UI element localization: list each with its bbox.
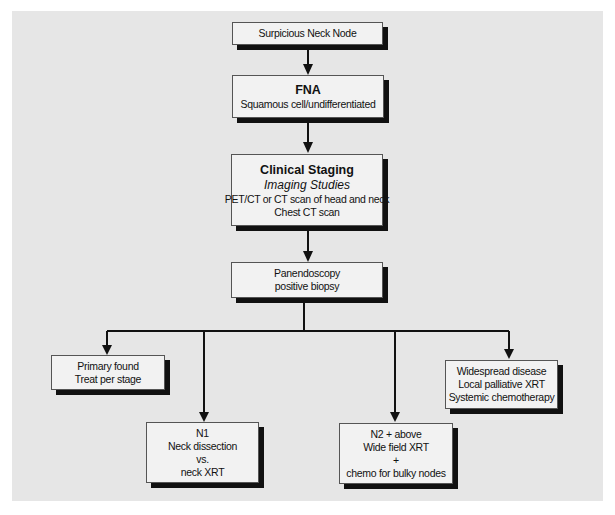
node-text: chemo for bulky nodes bbox=[346, 467, 445, 480]
node-text: PET/CT or CT scan of head and neck bbox=[225, 193, 390, 206]
node-subtitle: Imaging Studies bbox=[264, 178, 350, 193]
node-text: Treat per stage bbox=[75, 373, 141, 386]
node-title: Clinical Staging bbox=[260, 162, 354, 178]
node-n2-above: N2 + above Wide field XRT + chemo for bu… bbox=[339, 423, 453, 484]
node-text: Panendoscopy bbox=[274, 267, 340, 280]
node-text: Local palliative XRT bbox=[458, 378, 545, 391]
node-text: positive biopsy bbox=[275, 280, 339, 293]
node-n1: N1 Neck dissection vs. neck XRT bbox=[146, 422, 259, 483]
arrowhead-panendoscopy bbox=[303, 251, 313, 262]
node-primary-found: Primary found Treat per stage bbox=[51, 355, 165, 390]
node-title: FNA bbox=[295, 82, 321, 98]
node-text: Systemic chemotherapy bbox=[449, 391, 555, 404]
arrowhead-widespread bbox=[504, 349, 514, 359]
node-widespread-disease: Widespread disease Local palliative XRT … bbox=[445, 360, 558, 409]
node-text: N2 + above bbox=[371, 428, 422, 441]
arrowhead-staging bbox=[303, 142, 313, 153]
node-clinical-staging: Clinical Staging Imaging Studies PET/CT … bbox=[231, 154, 383, 226]
node-panendoscopy: Panendoscopy positive biopsy bbox=[231, 262, 383, 298]
node-text: Neck dissection bbox=[168, 440, 237, 453]
node-text: neck XRT bbox=[181, 466, 225, 479]
node-text: Primary found bbox=[77, 360, 138, 373]
arrowhead-primary bbox=[102, 345, 112, 355]
arrowhead-n1 bbox=[199, 412, 209, 422]
node-text: + bbox=[393, 454, 399, 467]
node-text: Chest CT scan bbox=[274, 206, 339, 219]
node-text: Surpicious Neck Node bbox=[259, 27, 357, 40]
node-text: Widespread disease bbox=[457, 365, 547, 378]
arrowhead-n2 bbox=[390, 412, 400, 422]
node-text: Squamous cell/undifferentiated bbox=[241, 98, 376, 111]
node-text: vs. bbox=[196, 453, 209, 466]
node-suspicious-neck-node: Surpicious Neck Node bbox=[232, 22, 383, 45]
arrowhead-fna bbox=[303, 64, 313, 75]
node-text: Wide field XRT bbox=[363, 441, 429, 454]
node-fna: FNA Squamous cell/undifferentiated bbox=[232, 75, 384, 118]
node-text: N1 bbox=[196, 427, 209, 440]
